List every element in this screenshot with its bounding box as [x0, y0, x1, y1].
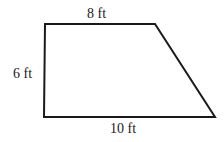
left-side-label: 6 ft	[13, 67, 32, 81]
diagram-canvas: 8 ft 6 ft 10 ft	[0, 0, 224, 142]
bottom-side-label: 10 ft	[110, 122, 136, 136]
top-side-label: 8 ft	[87, 7, 106, 21]
trapezoid-outline	[44, 24, 215, 117]
